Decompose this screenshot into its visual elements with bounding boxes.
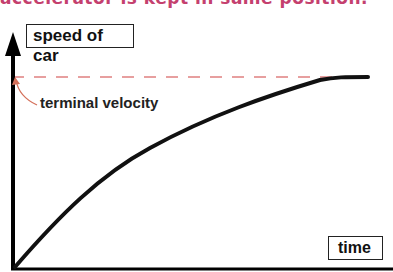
x-axis-label: time [328,236,383,260]
y-axis-label: speed of car [26,24,134,48]
terminal-velocity-label: terminal velocity [40,94,158,111]
y-axis-arrow-icon [5,32,21,56]
